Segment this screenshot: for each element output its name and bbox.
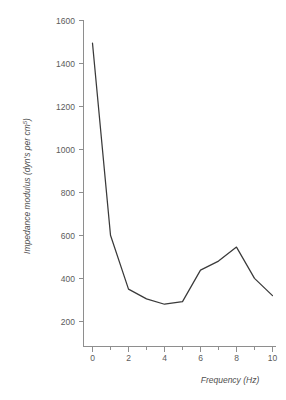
x-axis-title: Frequency (Hz): [201, 375, 260, 385]
impedance-modulus-chart: 1600 1400 1200 1000 800 600 400 200 0 2 …: [0, 0, 286, 400]
y-tick-label: 1600: [56, 16, 75, 26]
x-tick-label: 8: [234, 353, 239, 363]
y-tick-label: 400: [61, 274, 75, 284]
y-axis-title-tail: ): [22, 118, 32, 122]
x-tick-label: 6: [198, 353, 203, 363]
y-axis-title: Impedance modulus (dyn's per cm5): [22, 118, 32, 254]
y-tick-label: 600: [61, 231, 75, 241]
chart-background: [0, 0, 286, 400]
svg-text:Impedance modulus (dyn's per c: Impedance modulus (dyn's per cm5): [22, 118, 32, 254]
x-tick-label: 2: [126, 353, 131, 363]
y-tick-label: 200: [61, 317, 75, 327]
y-tick-label: 800: [61, 188, 75, 198]
y-tick-label: 1200: [56, 102, 75, 112]
x-tick-label: 4: [162, 353, 167, 363]
x-tick-label: 0: [90, 353, 95, 363]
x-tick-label: 10: [268, 353, 278, 363]
y-tick-label: 1000: [56, 145, 75, 155]
y-tick-label: 1400: [56, 59, 75, 69]
y-axis-title-main: Impedance modulus (dyn's per cm: [22, 124, 32, 254]
